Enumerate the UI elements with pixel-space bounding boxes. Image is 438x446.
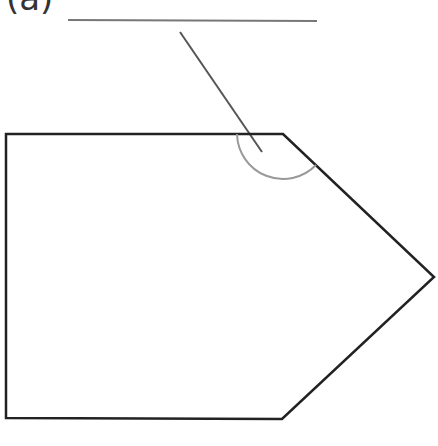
pentagon-shape: [6, 134, 434, 419]
answer-blank-line[interactable]: [68, 20, 317, 21]
angle-arc: [237, 134, 316, 179]
pentagon-diagram: [0, 0, 438, 446]
